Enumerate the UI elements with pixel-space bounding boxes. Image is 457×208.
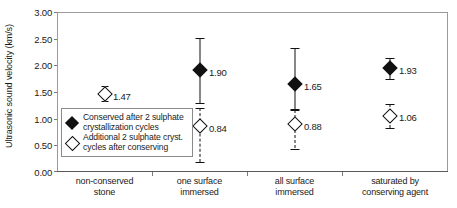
plot-right-border bbox=[447, 12, 448, 172]
y-tick-mark bbox=[54, 39, 57, 40]
error-bar bbox=[200, 108, 201, 162]
legend: Conserved after 2 sulphate crystallizati… bbox=[61, 108, 193, 157]
data-point-label: 0.84 bbox=[209, 124, 227, 133]
legend-marker-open-diamond bbox=[65, 136, 78, 149]
data-point-open-diamond bbox=[192, 118, 208, 134]
x-axis-category-line1: one surface bbox=[152, 176, 247, 187]
legend-marker-filled-diamond bbox=[65, 116, 78, 129]
data-point-open-diamond bbox=[287, 116, 303, 132]
data-point-label: 1.47 bbox=[113, 92, 131, 101]
data-point-label: 1.93 bbox=[399, 66, 417, 75]
error-bar-cap-upper bbox=[386, 58, 395, 59]
y-tick-mark bbox=[54, 171, 57, 172]
data-point-label: 1.06 bbox=[399, 113, 417, 122]
y-axis-tick-labels: 3.00 2.50 2.00 1.50 1.00 0.50 0.00 bbox=[14, 0, 52, 208]
data-point-label: 0.88 bbox=[304, 122, 322, 131]
error-bar-cap-upper bbox=[386, 104, 395, 105]
x-axis-category-label-1: non-conserved stone bbox=[57, 176, 152, 197]
x-axis-line bbox=[57, 171, 448, 172]
data-point-label: 1.65 bbox=[304, 82, 322, 91]
y-tick-label: 2.00 bbox=[18, 61, 52, 70]
error-bar-cap-upper bbox=[291, 110, 300, 111]
error-bar-cap-lower bbox=[196, 103, 205, 104]
x-axis-category-label-4: saturated by conserving agent bbox=[342, 176, 448, 197]
data-point-label: 1.90 bbox=[209, 68, 227, 77]
y-tick-mark bbox=[54, 145, 57, 146]
error-bar-cap-upper bbox=[196, 38, 205, 39]
plot-top-border bbox=[57, 12, 448, 13]
error-bar-cap-lower bbox=[386, 79, 395, 80]
legend-label: Additional 2 sulphate cryst. cycles afte… bbox=[83, 133, 183, 152]
data-point-open-diamond bbox=[382, 108, 398, 124]
y-tick-label: 2.50 bbox=[18, 34, 52, 43]
plot-area: 1.47 1.90 0.84 1.65 bbox=[57, 12, 448, 172]
error-bar-cap-lower bbox=[386, 128, 395, 129]
legend-item-additional: Additional 2 sulphate cryst. cycles afte… bbox=[65, 133, 188, 152]
x-axis-category-line1: all surface bbox=[247, 176, 342, 187]
legend-label: Conserved after 2 sulphate crystallizati… bbox=[83, 113, 184, 132]
y-tick-label: 0.00 bbox=[18, 168, 52, 177]
legend-label-line2: crystallization cycles bbox=[83, 123, 184, 133]
x-axis-category-line2: stone bbox=[57, 187, 152, 198]
y-tick-mark bbox=[54, 119, 57, 120]
y-tick-label: 1.00 bbox=[18, 114, 52, 123]
y-tick-label: 3.00 bbox=[18, 8, 52, 17]
error-bar-cap-lower bbox=[291, 149, 300, 150]
y-tick-label: 0.50 bbox=[18, 141, 52, 150]
x-axis-category-line2: immersed bbox=[152, 187, 247, 198]
x-axis-category-label-3: all surface immersed bbox=[247, 176, 342, 197]
x-axis-category-line2: immersed bbox=[247, 187, 342, 198]
x-axis-category-line2: conserving agent bbox=[342, 187, 448, 198]
y-tick-mark bbox=[54, 92, 57, 93]
y-tick-mark bbox=[54, 12, 57, 13]
error-bar-cap-lower bbox=[196, 162, 205, 163]
legend-label-line2: cycles after conserving bbox=[83, 143, 183, 153]
chart-container: Ultrasonic sound velocity (km/s) 3.00 2.… bbox=[0, 0, 457, 208]
data-point-open-diamond bbox=[97, 86, 113, 102]
y-axis-line bbox=[57, 12, 58, 172]
legend-item-conserved: Conserved after 2 sulphate crystallizati… bbox=[65, 113, 188, 132]
y-tick-mark bbox=[54, 65, 57, 66]
error-bar-cap-upper bbox=[196, 108, 205, 109]
data-point-filled-diamond bbox=[382, 60, 398, 76]
x-axis-category-line1: non-conserved bbox=[57, 176, 152, 187]
error-bar-cap-upper bbox=[291, 48, 300, 49]
data-point-filled-diamond bbox=[287, 76, 303, 92]
x-axis-category-label-2: one surface immersed bbox=[152, 176, 247, 197]
y-tick-label: 1.50 bbox=[18, 88, 52, 97]
data-point-filled-diamond bbox=[192, 62, 208, 78]
x-axis-category-line1: saturated by bbox=[342, 176, 448, 187]
